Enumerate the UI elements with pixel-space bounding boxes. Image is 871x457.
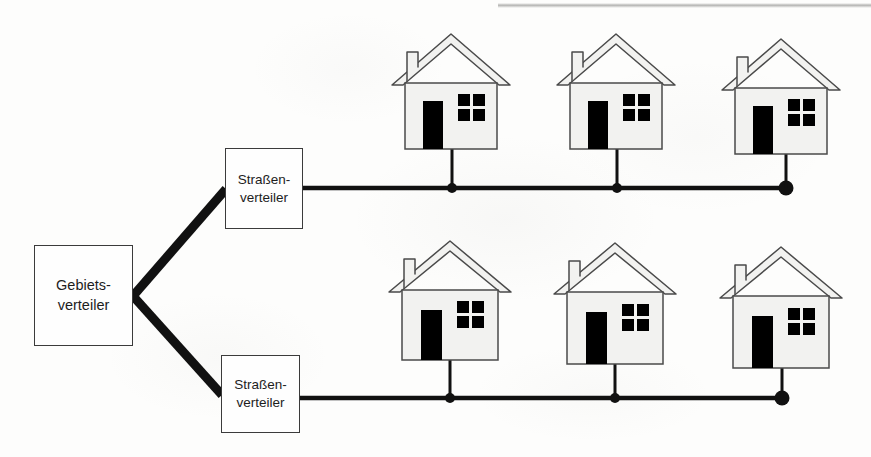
node-strassenverteiler-oben-label-line2: verteiler — [240, 189, 288, 207]
network-graphics-layer — [0, 0, 871, 457]
window-pane — [473, 109, 485, 121]
house-oben-2[interactable] — [557, 34, 675, 188]
window-pane — [803, 308, 815, 320]
window-pane — [623, 109, 635, 121]
houses-group — [389, 34, 842, 398]
window-pane — [803, 114, 815, 126]
window-pane — [788, 308, 800, 320]
door — [753, 106, 773, 154]
node-gebietsverteiler-label-line1: Gebiets- — [56, 276, 111, 295]
node-strassenverteiler-unten-label-line1: Straßen- — [234, 376, 287, 394]
node-strassenverteiler-unten[interactable]: Straßen- verteiler — [221, 355, 300, 433]
bus-lines-group — [300, 181, 794, 406]
window-pane — [622, 304, 634, 316]
window-pane — [803, 99, 815, 111]
door — [423, 101, 443, 149]
window-pane — [788, 114, 800, 126]
window-pane — [788, 99, 800, 111]
door — [421, 310, 442, 360]
window-pane — [803, 323, 815, 335]
trunk-line-lower — [133, 296, 222, 395]
window-pane — [623, 94, 635, 106]
house-unten-2[interactable] — [554, 243, 676, 398]
window-pane — [788, 323, 800, 335]
window-pane — [458, 109, 470, 121]
house-unten-1[interactable] — [389, 241, 511, 398]
door — [588, 101, 608, 149]
door — [752, 316, 773, 368]
node-gebietsverteiler[interactable]: Gebiets- verteiler — [34, 245, 133, 346]
house-unten-3[interactable] — [720, 247, 842, 398]
window-pane — [458, 94, 470, 106]
node-strassenverteiler-oben-label-line1: Straßen- — [238, 171, 291, 189]
window-pane — [638, 94, 650, 106]
node-strassenverteiler-oben[interactable]: Straßen- verteiler — [225, 148, 303, 229]
trunk-line-upper — [133, 189, 226, 296]
window-pane — [637, 319, 649, 331]
node-strassenverteiler-unten-label-line2: verteiler — [236, 394, 284, 412]
trunk-lines — [133, 189, 226, 395]
window-pane — [472, 316, 484, 328]
house-oben-3[interactable] — [722, 39, 840, 188]
window-pane — [622, 319, 634, 331]
window-pane — [473, 94, 485, 106]
window-pane — [637, 304, 649, 316]
door — [586, 312, 607, 364]
window-pane — [638, 109, 650, 121]
diagram-canvas: Gebiets- verteiler Straßen- verteiler St… — [0, 0, 871, 457]
window-pane — [457, 316, 469, 328]
node-gebietsverteiler-label-line2: verteiler — [58, 296, 110, 315]
window-pane — [457, 301, 469, 313]
window-pane — [472, 301, 484, 313]
house-oben-1[interactable] — [392, 34, 510, 188]
